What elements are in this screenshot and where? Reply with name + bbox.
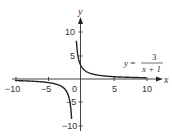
y-tick-label: 5 bbox=[70, 51, 75, 61]
x-tick-label: 0 bbox=[72, 84, 77, 94]
x-axis-label: x bbox=[163, 74, 169, 85]
x-tick-label: 5 bbox=[112, 84, 117, 94]
x-tick-label: −5 bbox=[41, 84, 51, 94]
x-axis-arrow-icon bbox=[156, 77, 163, 82]
x-tick-label: 10 bbox=[142, 84, 152, 94]
y-tick-label: 10 bbox=[65, 27, 75, 37]
equation-denominator: x + 1 bbox=[141, 64, 161, 74]
equation-lhs: y = bbox=[123, 58, 135, 68]
function-graph: y x −10 −5 0 5 10 10 5 −5 −10 y = 3 x + … bbox=[0, 0, 172, 137]
x-tick-label: −10 bbox=[5, 84, 20, 94]
y-tick-label: −10 bbox=[62, 121, 77, 131]
curve-right-branch bbox=[76, 41, 146, 78]
y-axis-label: y bbox=[77, 6, 83, 17]
equation-numerator: 3 bbox=[152, 52, 157, 62]
y-axis-arrow-icon bbox=[78, 17, 83, 24]
